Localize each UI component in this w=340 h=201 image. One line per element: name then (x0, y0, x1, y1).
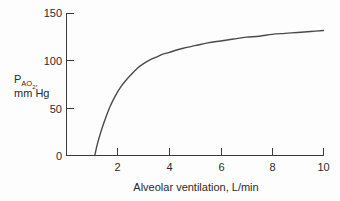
x-tick-label-8: 8 (269, 161, 275, 173)
y-tick-label-50: 50 (50, 103, 62, 115)
data-curve-alveolar-po2 (95, 31, 324, 156)
chart-figure: 150 100 50 0 2 4 6 8 10 PAO2, mm Hg Alve… (0, 0, 340, 201)
x-tick-label-10: 10 (317, 161, 329, 173)
x-tick-label-4: 4 (166, 161, 172, 173)
y-axis-title-line2: mm Hg (14, 87, 49, 99)
y-axis-title-p: P (14, 73, 21, 85)
y-tick-label-150: 150 (44, 7, 62, 19)
chart-plot-area: 150 100 50 0 2 4 6 8 10 PAO2, mm Hg Alve… (0, 0, 340, 201)
x-tick-label-6: 6 (218, 161, 224, 173)
y-tick-label-100: 100 (44, 55, 62, 67)
x-axis-title: Alveolar ventilation, L/min (133, 181, 258, 193)
x-tick-label-2: 2 (114, 161, 120, 173)
y-tick-label-0: 0 (56, 150, 62, 162)
